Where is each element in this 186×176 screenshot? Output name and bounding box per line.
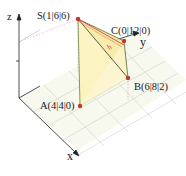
point-a bbox=[78, 104, 82, 108]
point-c bbox=[122, 39, 126, 43]
vertical-guides bbox=[19, 30, 40, 42]
z-arrow-icon bbox=[17, 14, 21, 20]
z-axis-label: z bbox=[7, 12, 12, 23]
label-b: B(6|8|2) bbox=[134, 82, 168, 93]
point-b bbox=[126, 76, 130, 80]
y-axis-label: y bbox=[140, 36, 146, 48]
label-c: C(0|12|0) bbox=[111, 26, 150, 37]
point-s bbox=[76, 17, 80, 21]
label-s: S(1|6|6) bbox=[37, 11, 70, 22]
label-a: A(4|4|0) bbox=[40, 101, 75, 112]
x-axis-label: x bbox=[67, 150, 73, 162]
